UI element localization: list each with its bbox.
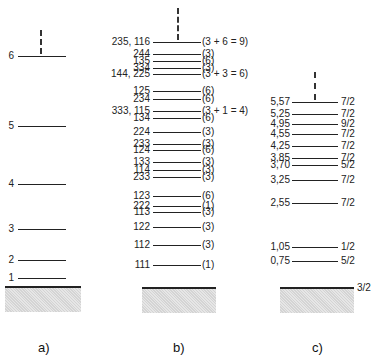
level-line-b (153, 206, 201, 207)
level-label-a: 4 (0, 179, 14, 189)
level-label-a: 2 (0, 255, 14, 265)
degeneracy-b: (3) (202, 240, 214, 250)
level-line-b (153, 68, 201, 69)
energy-label-c: 4,25 (262, 141, 290, 151)
energy-label-c: 0,75 (262, 256, 290, 266)
degeneracy-b: (6) (202, 113, 214, 123)
spin-label-c: 7/2 (341, 141, 355, 151)
level-label-b: 111 (110, 260, 150, 270)
level-line-c (292, 247, 338, 248)
degeneracy-b: (3) (202, 172, 214, 182)
spin-label-c: 7/2 (341, 175, 355, 185)
level-label-a: 6 (0, 51, 14, 61)
ground-hatch-a (5, 288, 81, 312)
level-line-c (292, 102, 338, 103)
degeneracy-b: (3) (202, 127, 214, 137)
level-line-c (292, 134, 338, 135)
energy-label-c: 5,57 (262, 97, 290, 107)
degeneracy-b: (1) (202, 260, 214, 270)
energy-label-c: 3,70 (262, 160, 290, 170)
caption-c: c) (312, 340, 323, 355)
level-line-c (292, 165, 338, 166)
level-line-b (153, 144, 201, 145)
degeneracy-b: (3) (202, 222, 214, 232)
level-line-c (292, 203, 338, 204)
level-line-a (18, 56, 66, 57)
level-line-b (153, 265, 201, 266)
spin-label-c: 7/2 (341, 198, 355, 208)
spin-label-c: 7/2 (341, 97, 355, 107)
energy-label-c: 2,55 (262, 198, 290, 208)
level-label-b: 224 (110, 127, 150, 137)
level-line-c (292, 158, 338, 159)
level-line-b (153, 177, 201, 178)
level-label-a: 3 (0, 224, 14, 234)
degeneracy-b: (6) (202, 94, 214, 104)
continuation-dash-b (177, 8, 179, 40)
caption-a: a) (38, 340, 50, 355)
level-line-b (153, 212, 201, 213)
level-line-b (153, 61, 201, 62)
level-label-b: 112 (110, 240, 150, 250)
continuation-dash-c (314, 72, 316, 100)
level-label-b: 233 (110, 172, 150, 182)
spin-label-c: 5/2 (341, 256, 355, 266)
level-label-b: 235, 116 (110, 37, 150, 47)
spin-label-c: 5/2 (341, 160, 355, 170)
energy-label-c: 3,25 (262, 175, 290, 185)
ground-hatch-b (142, 289, 216, 313)
level-line-b (153, 91, 201, 92)
level-line-c (292, 124, 338, 125)
degeneracy-b: (3) (202, 207, 214, 217)
level-label-b: 144, 225 (110, 69, 150, 79)
ground-hatch-c (280, 289, 354, 313)
continuation-dash-a (40, 30, 42, 54)
level-line-b (153, 245, 201, 246)
degeneracy-b: (3 + 3 = 6) (202, 69, 248, 79)
level-line-b (153, 74, 201, 75)
level-line-b (153, 99, 201, 100)
caption-b: b) (173, 340, 185, 355)
degeneracy-b: (3 + 6 = 9) (202, 37, 248, 47)
level-line-b (153, 150, 201, 151)
level-line-a (18, 229, 66, 230)
energy-label-c: 4,55 (262, 129, 290, 139)
level-line-b (153, 170, 201, 171)
level-label-b: 122 (110, 222, 150, 232)
level-line-c (292, 146, 338, 147)
level-label-a: 5 (0, 121, 14, 131)
level-line-b (153, 54, 201, 55)
level-line-b (153, 227, 201, 228)
level-label-b: 134 (110, 113, 150, 123)
level-label-b: 234 (110, 94, 150, 104)
level-line-b (153, 42, 201, 43)
level-line-b (153, 118, 201, 119)
level-line-a (18, 278, 66, 279)
level-line-a (18, 126, 66, 127)
level-label-b: 113 (110, 207, 150, 217)
level-line-a (18, 184, 66, 185)
level-line-b (153, 196, 201, 197)
level-line-c (292, 114, 338, 115)
level-line-b (153, 132, 201, 133)
level-label-a: 1 (0, 273, 14, 283)
energy-label-c: 1,05 (262, 242, 290, 252)
level-line-c (292, 180, 338, 181)
ground-spin-c: 3/2 (357, 283, 371, 293)
degeneracy-b: (6) (202, 145, 214, 155)
level-line-b (153, 111, 201, 112)
level-line-b (153, 162, 201, 163)
spin-label-c: 1/2 (341, 242, 355, 252)
spin-label-c: 7/2 (341, 129, 355, 139)
level-label-b: 124 (110, 145, 150, 155)
level-line-c (292, 261, 338, 262)
level-line-a (18, 260, 66, 261)
